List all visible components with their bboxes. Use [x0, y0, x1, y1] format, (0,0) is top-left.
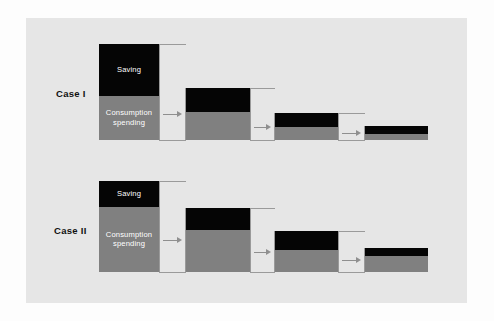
- connector-left-vertical: [338, 113, 339, 140]
- flow-arrow-shaft: [342, 260, 356, 261]
- connector-top-line: [159, 181, 186, 182]
- consumption-segment: [275, 127, 338, 140]
- stacked-bar-case1-step3: [275, 113, 338, 140]
- consumption-segment: Consumptionspending: [99, 207, 159, 272]
- stacked-bar-case2-step4: [365, 248, 428, 272]
- connector-bottom-line: [250, 140, 275, 141]
- saving-segment: [275, 231, 338, 250]
- case-label-2: Case II: [54, 225, 87, 236]
- connector-top-line: [338, 231, 365, 232]
- saving-segment: Saving: [99, 181, 159, 207]
- consumption-segment: [365, 134, 428, 140]
- consumption-label-line-2: spending: [99, 118, 159, 128]
- connector-top-line: [159, 44, 186, 45]
- connector-left-vertical: [250, 208, 251, 272]
- connector-top-line: [338, 113, 365, 114]
- saving-segment-label: Saving: [99, 189, 159, 199]
- consumption-label-line-1: Consumption: [99, 230, 159, 240]
- connector-top-line: [250, 208, 275, 209]
- consumption-segment: Consumptionspending: [99, 96, 159, 140]
- flow-arrow-icon: [266, 249, 271, 255]
- flow-arrow-shaft: [163, 240, 177, 241]
- figure-canvas: Case ISavingConsumptionspendingCase IISa…: [0, 0, 494, 321]
- consumption-segment: [186, 230, 250, 272]
- consumption-label-line-2: spending: [99, 239, 159, 249]
- saving-segment: [186, 208, 250, 230]
- connector-left-vertical: [250, 88, 251, 140]
- stacked-bar-case2-step2: [186, 208, 250, 272]
- connector-left-vertical: [338, 231, 339, 272]
- flow-arrow-icon: [266, 124, 271, 130]
- saving-segment: Saving: [99, 44, 159, 96]
- consumption-segment: [365, 256, 428, 272]
- stacked-bar-case1-step2: [186, 88, 250, 140]
- consumption-segment-label: Consumptionspending: [99, 230, 159, 249]
- connector-bottom-line: [159, 272, 186, 273]
- connector-left-vertical: [159, 44, 160, 140]
- saving-segment: [365, 126, 428, 134]
- consumption-label-line-1: Consumption: [99, 108, 159, 118]
- flow-arrow-shaft: [163, 114, 177, 115]
- stacked-bar-case2-step3: [275, 231, 338, 272]
- flow-arrow-shaft: [254, 252, 266, 253]
- case-label-1: Case I: [56, 88, 86, 99]
- saving-segment: [186, 88, 250, 112]
- connector-bottom-line: [338, 140, 365, 141]
- saving-segment-label: Saving: [99, 65, 159, 75]
- connector-bottom-line: [338, 272, 365, 273]
- flow-arrow-shaft: [342, 133, 356, 134]
- connector-bottom-line: [159, 140, 186, 141]
- flow-arrow-icon: [356, 130, 361, 136]
- connector-left-vertical: [159, 181, 160, 272]
- flow-arrow-icon: [177, 111, 182, 117]
- stacked-bar-case1-step4: [365, 126, 428, 140]
- stacked-bar-case2-step1: SavingConsumptionspending: [99, 181, 159, 272]
- saving-segment: [275, 113, 338, 127]
- flow-arrow-icon: [177, 237, 182, 243]
- consumption-segment-label: Consumptionspending: [99, 108, 159, 127]
- flow-arrow-shaft: [254, 127, 266, 128]
- saving-segment: [365, 248, 428, 256]
- stacked-bar-case1-step1: SavingConsumptionspending: [99, 44, 159, 140]
- consumption-segment: [186, 112, 250, 140]
- flow-arrow-icon: [356, 257, 361, 263]
- connector-bottom-line: [250, 272, 275, 273]
- connector-top-line: [250, 88, 275, 89]
- consumption-segment: [275, 250, 338, 272]
